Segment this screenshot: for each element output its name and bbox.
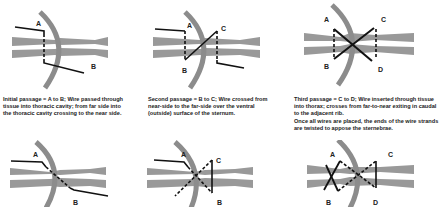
sternum-diagram-6: A C B D [290, 140, 440, 207]
sternum-diagram-5: A C B [145, 140, 295, 207]
label-b: B [91, 63, 96, 70]
label-c: C [216, 157, 221, 164]
sternum-diagram-2: A B C [145, 0, 295, 95]
panel-second-passage-side: A C B [145, 140, 295, 207]
label-c: C [381, 16, 386, 23]
panel-initial-passage-side: A B [0, 140, 150, 207]
panel-initial-passage: A B [0, 0, 150, 95]
label-c: C [221, 25, 226, 32]
sternum-diagram-4: A B [0, 140, 150, 207]
label-d: D [378, 66, 383, 73]
caption-initial-passage: Initial passage = A to B; Wire passed th… [3, 96, 128, 118]
label-a: A [187, 22, 192, 29]
label-b: B [217, 199, 222, 206]
label-c: C [388, 151, 393, 158]
panel-third-passage: A C B D [290, 0, 440, 95]
caption-third-passage: Third passage = C to D; Wire inserted th… [294, 96, 440, 132]
label-b: B [326, 199, 331, 206]
label-b: B [324, 63, 329, 70]
label-a: A [181, 151, 186, 158]
label-b: B [73, 199, 78, 206]
wire-solid-exit [44, 61, 84, 73]
panel-second-passage: A B C [145, 0, 295, 95]
sternum-diagram-1: A B [0, 0, 150, 95]
sternum-diagram-3: A C B D [290, 0, 440, 95]
label-d: D [373, 199, 378, 206]
wire-solid [15, 27, 44, 34]
label-a: A [330, 151, 335, 158]
caption-twist-note: Once all wires are placed, the ends of t… [294, 118, 440, 132]
panel-third-passage-side: A C B D [290, 140, 440, 207]
caption-second-passage: Second passage = B to C; Wire crossed fr… [148, 96, 273, 118]
label-a: A [33, 151, 38, 158]
caption-third-passage-text: Third passage = C to D; Wire inserted th… [294, 96, 440, 118]
label-a: A [324, 16, 329, 23]
label-a: A [36, 20, 41, 27]
label-b: B [182, 67, 187, 74]
